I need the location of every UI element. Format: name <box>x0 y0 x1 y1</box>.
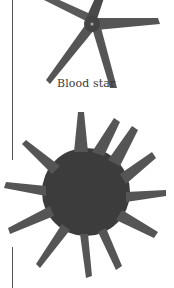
sun-star-illustration <box>0 100 174 288</box>
figure-caption-blood-star: Blood star <box>57 77 115 90</box>
